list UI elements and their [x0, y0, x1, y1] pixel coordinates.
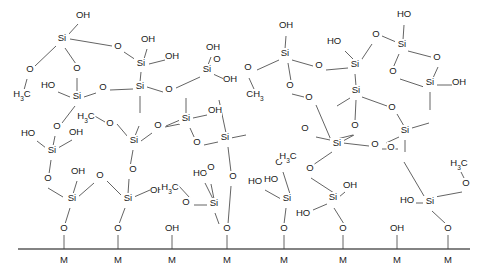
- atom-label-o10: OH: [206, 41, 220, 52]
- atom-label-o12: O: [165, 83, 172, 94]
- atom-label-si10: Si: [124, 192, 132, 203]
- atom-label-o8: O: [99, 81, 106, 92]
- atom-label-o29: O: [229, 170, 236, 181]
- surface-anchor-label-1: O: [60, 222, 67, 233]
- atom-label-o6: OH: [141, 33, 155, 44]
- atom-label-o56: O: [462, 177, 469, 188]
- atom-label-si15: Si: [352, 84, 360, 95]
- surface-anchor-label-2: O: [114, 222, 121, 233]
- atom-label-si11: Si: [210, 197, 218, 208]
- atom-label-o11: OH: [223, 73, 237, 84]
- atom-label-o13: O: [154, 119, 161, 130]
- atom-label-o35: O: [286, 79, 293, 90]
- atom-label-o18: O: [53, 120, 60, 131]
- atom-label-o7: OH: [165, 50, 179, 61]
- atom-label-o14: OH: [208, 104, 222, 115]
- surface-anchor-label-7: OH: [390, 222, 404, 233]
- atom-label-si4: Si: [203, 63, 211, 74]
- atom-label-o50: HO: [296, 207, 310, 218]
- chemical-structure-svg: OHOH3COOOHOHOHOOHOHOOOHOOH3COHOOHOOHOOOH…: [0, 0, 489, 279]
- atom-label-o41: OH: [452, 76, 466, 87]
- atom-label-o27: HO: [193, 167, 207, 178]
- surface-metal-label-5: M: [280, 254, 288, 265]
- atom-label-si3: Si: [136, 80, 144, 91]
- atom-label-o1: OH: [76, 9, 90, 20]
- surface-anchor-label-5: O: [280, 222, 287, 233]
- atom-label-o58: O: [213, 53, 220, 64]
- atom-label-o19: HO: [21, 127, 35, 138]
- surface-anchor-label-6: O: [339, 222, 346, 233]
- atom-label-o57: HO: [400, 194, 414, 205]
- atom-label-si22: Si: [426, 195, 434, 206]
- surface-metal-label-4: M: [223, 254, 231, 265]
- atom-label-si9: Si: [68, 192, 76, 203]
- atom-label-o16: O: [106, 117, 113, 128]
- bond-layer: [24, 24, 464, 224]
- atom-label-si1: Si: [58, 32, 66, 43]
- surface-metal-label-2: M: [114, 254, 122, 265]
- atom-label-si19: Si: [283, 192, 291, 203]
- surface-layer: OMOMOHMOMOMOMOHMOM: [18, 222, 470, 265]
- atom-label-si5: Si: [73, 90, 81, 101]
- atom-label-o36: HO: [327, 35, 341, 46]
- surface-metal-label-8: M: [444, 254, 452, 265]
- atom-label-o42: O: [305, 91, 312, 102]
- atom-label-o21: O: [44, 172, 51, 183]
- surface-metal-label-3: M: [168, 254, 176, 265]
- atom-label-o47: HO: [264, 173, 278, 184]
- atom-label-si16: Si: [398, 38, 406, 49]
- surface-anchor-label-8: O: [444, 222, 451, 233]
- atom-label-o33: OH: [279, 19, 293, 30]
- atom-label-si6: Si: [182, 112, 190, 123]
- atom-label-o46: O: [371, 138, 378, 149]
- surface-metal-label-6: M: [339, 254, 347, 265]
- atom-label-o4: O: [73, 62, 80, 73]
- atom-label-o51: HO: [248, 175, 262, 186]
- atom-label-layer: OHOH3COOOHOHOHOOHOHOOOHOOH3COHOOHOOHOOOH…: [13, 8, 471, 219]
- atom-label-o43: O: [351, 119, 358, 130]
- diagram-canvas: OHOH3COOOHOHOHOOHOHOOOHOOH3COHOOHOOHOOOH…: [0, 0, 489, 279]
- atom-label-o23: O: [96, 169, 103, 180]
- surface-metal-label-7: M: [393, 254, 401, 265]
- atom-label-si12: Si: [221, 131, 229, 142]
- atom-label-o24: O: [129, 163, 136, 174]
- atom-label-o20: OH: [69, 126, 83, 137]
- atom-label-si18: Si: [333, 137, 341, 148]
- atom-label-o22: OH: [71, 165, 85, 176]
- atom-label-o2: O: [26, 63, 33, 74]
- atom-label-si20: Si: [329, 191, 337, 202]
- atom-label-si13: Si: [281, 47, 289, 58]
- surface-anchor-label-3: OH: [165, 222, 179, 233]
- atom-label-o49: OH: [343, 179, 357, 190]
- atom-label-o40: O: [389, 65, 396, 76]
- surface-anchor-label-4: O: [223, 222, 230, 233]
- atom-label-o28: O: [182, 196, 189, 207]
- atom-label-o9: HO: [41, 79, 55, 90]
- atom-label-si2: Si: [137, 57, 145, 68]
- atom-label-si17: Si: [426, 76, 434, 87]
- atom-label-o38: HO: [397, 8, 411, 19]
- atom-label-o15: O: [193, 136, 200, 147]
- atom-label-o45: O: [301, 122, 308, 133]
- atom-label-o34: O: [315, 59, 322, 70]
- atom-label-si21: Si: [401, 124, 409, 135]
- atom-label-o44: O: [388, 101, 395, 112]
- atom-label-o5: O: [114, 40, 121, 51]
- atom-label-si14: Si: [351, 58, 359, 69]
- surface-metal-label-1: M: [60, 254, 68, 265]
- atom-label-o31: O: [244, 61, 251, 72]
- atom-label-o30: O: [207, 161, 214, 172]
- atom-label-si8: Si: [48, 144, 56, 155]
- atom-label-o48: O: [306, 162, 313, 173]
- atom-label-si7: Si: [130, 134, 138, 145]
- atom-label-o37: O: [372, 28, 379, 39]
- atom-label-o39: O: [433, 51, 440, 62]
- atom-label-o54: O: [387, 141, 394, 152]
